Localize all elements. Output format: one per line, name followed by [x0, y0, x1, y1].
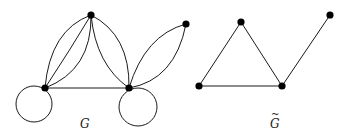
label-g: G: [80, 117, 90, 131]
graph-diagram: G G ~: [0, 0, 352, 135]
label-g-tilde: G: [270, 117, 280, 131]
node-tilde-right: [278, 82, 285, 89]
label-g-tilde-accent: ~: [271, 108, 279, 119]
node-g-right: [125, 84, 132, 91]
edge-top-left-2: [45, 15, 91, 88]
edge-right-far-1: [129, 24, 186, 88]
loop-left: [16, 86, 52, 122]
edge-tilde-right-far: [282, 15, 330, 86]
graph-g-tilde: G ~: [195, 11, 333, 131]
node-g-top: [87, 11, 94, 18]
node-g-left: [41, 84, 48, 91]
node-tilde-left: [195, 82, 202, 89]
edge-right-far-2: [129, 24, 186, 88]
edge-tilde-top-left: [199, 22, 241, 86]
edge-tilde-top-right: [241, 22, 282, 86]
loop-right: [119, 88, 157, 126]
node-tilde-far: [326, 11, 333, 18]
graph-g: G: [16, 11, 190, 131]
node-g-far: [182, 20, 189, 27]
edge-top-right-2: [91, 15, 129, 88]
node-tilde-top: [237, 18, 244, 25]
